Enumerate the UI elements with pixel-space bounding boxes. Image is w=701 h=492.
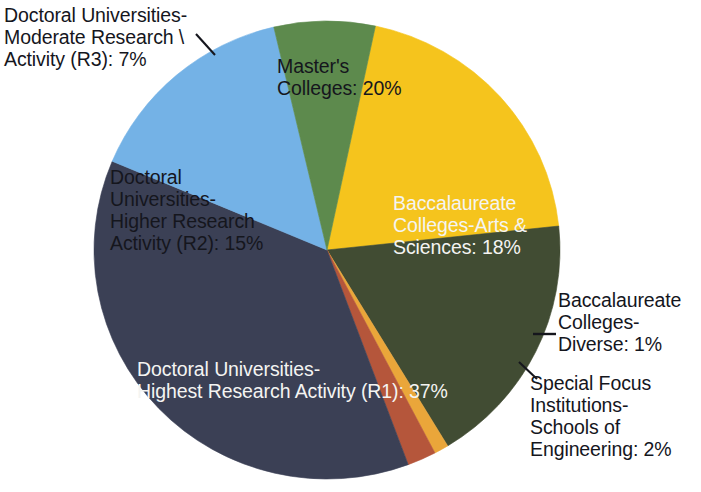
slice-label-doctoral-r3: Doctoral Universities- Moderate Research…	[4, 4, 234, 70]
slice-label-special-focus-engineering: Special Focus Institutions- Schools of E…	[530, 372, 700, 460]
slice-label-doctoral-r1: Doctoral Universities- Highest Research …	[137, 358, 457, 402]
pie-chart: Doctoral Universities- Moderate Research…	[0, 0, 701, 492]
slice-label-doctoral-r2: Doctoral Universities- Higher Research A…	[110, 166, 300, 254]
slice-label-baccalaureate-arts-sciences: Baccalaureate Colleges-Arts & Sciences: …	[393, 192, 568, 258]
slice-label-baccalaureate-diverse: Baccalaureate Colleges- Diverse: 1%	[558, 289, 700, 355]
slice-label-masters-colleges: Master's Colleges: 20%	[277, 55, 457, 99]
